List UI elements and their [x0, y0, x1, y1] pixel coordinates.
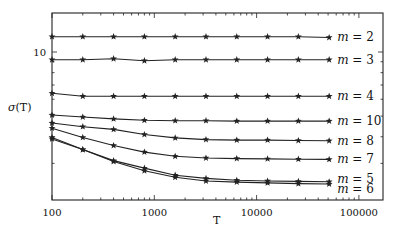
star-marker-icon [172, 117, 179, 124]
plot-frame [52, 13, 383, 200]
series-label: m = 10 [337, 114, 381, 128]
series-lines [49, 33, 333, 187]
star-marker-icon [326, 137, 333, 144]
series-label: m = 6 [337, 182, 374, 196]
star-marker-icon [295, 93, 302, 100]
star-marker-icon [203, 56, 210, 63]
series-m4 [49, 90, 333, 99]
star-marker-icon [326, 156, 333, 163]
star-marker-icon [141, 57, 148, 64]
x-tick-label: 100 [42, 207, 61, 218]
star-marker-icon [295, 56, 302, 63]
star-marker-icon [110, 142, 117, 149]
star-marker-icon [326, 56, 333, 63]
star-marker-icon [326, 117, 333, 124]
x-axis-label: T [213, 214, 221, 227]
star-marker-icon [264, 93, 271, 100]
star-marker-icon [172, 134, 179, 141]
star-marker-icon [233, 136, 240, 143]
series-m3 [49, 55, 333, 64]
series-label: m = 8 [337, 134, 374, 148]
x-tick-label: 1000 [142, 207, 167, 218]
plot-border [52, 13, 383, 200]
star-marker-icon [264, 117, 271, 124]
x-tick-label: 10000 [241, 207, 273, 218]
star-marker-icon [295, 33, 302, 40]
star-marker-icon [233, 33, 240, 40]
star-marker-icon [172, 33, 179, 40]
line-chart: 100100010000100000 10 m = 2m = 3m = 4m =… [0, 0, 396, 235]
star-marker-icon [172, 56, 179, 63]
star-marker-icon [203, 154, 210, 161]
star-marker-icon [326, 93, 333, 100]
series-label: m = 3 [337, 53, 374, 67]
series-label: m = 7 [337, 152, 374, 166]
star-marker-icon [110, 33, 117, 40]
series-m2 [49, 33, 333, 40]
star-marker-icon [203, 117, 210, 124]
series-label: m = 2 [337, 30, 374, 44]
star-marker-icon [233, 155, 240, 162]
star-marker-icon [203, 93, 210, 100]
x-axis-ticks: 100100010000100000 [42, 13, 378, 218]
star-marker-icon [110, 93, 117, 100]
star-marker-icon [295, 156, 302, 163]
series-m6 [49, 135, 333, 187]
star-marker-icon [295, 137, 302, 144]
star-marker-icon [141, 93, 148, 100]
star-marker-icon [110, 115, 117, 122]
y-axis-label: σ(T) [8, 101, 31, 114]
star-marker-icon [264, 155, 271, 162]
star-marker-icon [141, 148, 148, 155]
star-marker-icon [79, 134, 86, 141]
star-marker-icon [79, 113, 86, 120]
y-axis-ticks: 10 [33, 47, 383, 164]
star-marker-icon [141, 131, 148, 138]
star-marker-icon [295, 117, 302, 124]
series-labels: m = 2m = 3m = 4m = 10m = 8m = 7m = 5m = … [337, 30, 381, 196]
star-marker-icon [203, 33, 210, 40]
star-marker-icon [264, 33, 271, 40]
star-marker-icon [141, 117, 148, 124]
star-marker-icon [79, 93, 86, 100]
star-marker-icon [110, 55, 117, 62]
star-marker-icon [79, 146, 86, 153]
star-marker-icon [264, 136, 271, 143]
star-marker-icon [110, 158, 117, 165]
star-marker-icon [326, 34, 333, 41]
star-marker-icon [172, 153, 179, 160]
star-marker-icon [233, 93, 240, 100]
series-m7 [49, 125, 333, 163]
star-marker-icon [233, 56, 240, 63]
star-marker-icon [79, 123, 86, 130]
series-m10 [49, 111, 333, 124]
star-marker-icon [141, 33, 148, 40]
series-label: m = 4 [337, 89, 374, 103]
star-marker-icon [79, 33, 86, 40]
star-marker-icon [203, 136, 210, 143]
star-marker-icon [79, 56, 86, 63]
star-marker-icon [233, 117, 240, 124]
star-marker-icon [110, 126, 117, 133]
star-marker-icon [172, 93, 179, 100]
y-tick-label: 10 [33, 47, 46, 58]
x-tick-label: 100000 [340, 207, 378, 218]
star-marker-icon [264, 56, 271, 63]
